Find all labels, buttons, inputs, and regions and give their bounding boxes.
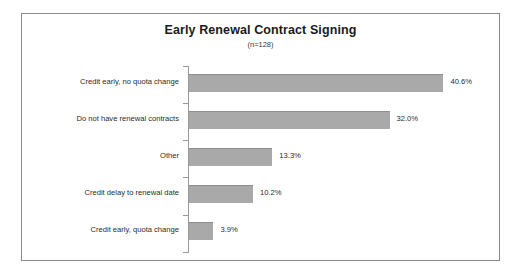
bar: [189, 111, 390, 129]
plot-area: Credit early, no quota change40.6%Do not…: [22, 62, 501, 257]
bar-row: Other13.3%: [22, 141, 501, 177]
bar-row: Credit delay to renewal date10.2%: [22, 178, 501, 214]
bar: [189, 222, 213, 240]
bar-category-label: Other: [22, 151, 179, 160]
bar-category-label: Credit delay to renewal date: [22, 188, 179, 197]
bar-value-label: 10.2%: [260, 188, 282, 197]
bar-category-label: Do not have renewal contracts: [22, 114, 179, 123]
bar: [189, 74, 443, 92]
chart-frame: Early Renewal Contract Signing (n=128) C…: [21, 13, 500, 261]
bar-value-label: 40.6%: [450, 77, 472, 86]
bar-value-label: 32.0%: [397, 114, 419, 123]
bar-row: Do not have renewal contracts32.0%: [22, 104, 501, 140]
bar-value-label: 13.3%: [279, 151, 301, 160]
chart-subtitle: (n=128): [22, 40, 499, 49]
bar-category-label: Credit early, quota change: [22, 225, 179, 234]
bar-category-label: Credit early, no quota change: [22, 77, 179, 86]
bar: [189, 185, 253, 203]
bar-row: Credit early, no quota change40.6%: [22, 67, 501, 103]
bars-group: Credit early, no quota change40.6%Do not…: [22, 62, 501, 257]
bar: [189, 148, 272, 166]
bar-value-label: 3.9%: [220, 225, 237, 234]
bar-row: Credit early, quota change3.9%: [22, 215, 501, 251]
chart-title: Early Renewal Contract Signing: [22, 23, 499, 37]
